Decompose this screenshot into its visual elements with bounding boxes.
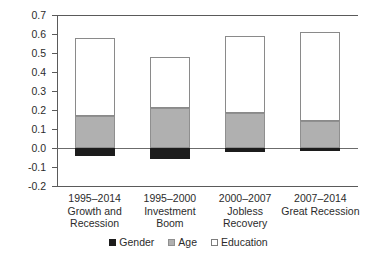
bar-segment-education <box>150 57 190 108</box>
y-tick-label: 0.1 <box>6 124 46 135</box>
plot-area <box>57 15 358 186</box>
bar-segment-gender <box>225 148 265 152</box>
bar-segment-age <box>150 108 190 148</box>
legend-label: Education <box>221 236 268 248</box>
bar-segment-gender <box>150 148 190 159</box>
stacked-bar-chart: 0.70.60.50.40.30.20.10.0-0.1-0.2 1995–20… <box>0 0 377 261</box>
legend-label: Age <box>178 236 197 248</box>
x-category-label-line: Great Recession <box>274 205 366 218</box>
y-tick-label: 0.0 <box>6 143 46 154</box>
bar-segment-gender <box>300 148 340 151</box>
bar-segment-age <box>300 121 340 148</box>
bar-group <box>225 15 265 186</box>
bar-segment-age <box>225 113 265 148</box>
legend-item[interactable]: Age <box>168 236 197 248</box>
bar-segment-education <box>75 38 115 116</box>
x-category-label-line: Recovery <box>199 217 291 230</box>
y-tick-mark <box>52 186 57 187</box>
legend-swatch-icon <box>168 239 175 246</box>
bar-group <box>300 15 340 186</box>
legend-swatch-icon <box>109 239 116 246</box>
legend-swatch-icon <box>211 239 218 246</box>
y-tick-label: 0.6 <box>6 29 46 40</box>
legend-item[interactable]: Gender <box>109 236 154 248</box>
x-category-label: 2007–2014Great Recession <box>274 192 366 217</box>
legend-item[interactable]: Education <box>211 236 268 248</box>
x-category-label-line: 2007–2014 <box>274 192 366 205</box>
y-tick-label: 0.2 <box>6 105 46 116</box>
bar-group <box>75 15 115 186</box>
chart-legend: GenderAgeEducation <box>0 236 377 248</box>
legend-label: Gender <box>119 236 154 248</box>
y-tick-label: 0.7 <box>6 10 46 21</box>
plot-bottom-border <box>57 186 358 187</box>
bar-segment-education <box>225 36 265 113</box>
y-tick-label: 0.4 <box>6 67 46 78</box>
bar-segment-education <box>300 32 340 121</box>
y-tick-label: -0.1 <box>6 162 46 173</box>
bar-group <box>150 15 190 186</box>
y-tick-label: -0.2 <box>6 181 46 192</box>
bar-segment-age <box>75 116 115 148</box>
y-tick-label: 0.3 <box>6 86 46 97</box>
bar-segment-gender <box>75 148 115 156</box>
y-tick-label: 0.5 <box>6 48 46 59</box>
